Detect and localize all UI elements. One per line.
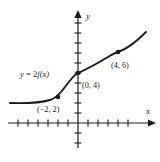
data-point-marker bbox=[76, 71, 81, 76]
point-label-4-6: (4, 6) bbox=[111, 61, 129, 70]
x-axis-arrow-icon bbox=[148, 119, 156, 126]
curve-label-eq: = 2 bbox=[24, 69, 37, 79]
graph-canvas: y x y = 2f(x) (−2, 2) (0, 4) (4, 6) bbox=[0, 0, 160, 162]
curve-label-arg: (x) bbox=[40, 69, 50, 79]
data-point-marker bbox=[116, 50, 121, 55]
curve-equation-label: y = 2f(x) bbox=[19, 69, 49, 79]
y-axis-arrow-icon bbox=[74, 10, 81, 18]
x-axis-label: x bbox=[145, 106, 150, 116]
data-point-marker bbox=[56, 95, 61, 100]
point-label-minus2-2: (−2, 2) bbox=[37, 105, 60, 114]
function-graph-figure: y x y = 2f(x) (−2, 2) (0, 4) (4, 6) bbox=[0, 0, 160, 162]
point-label-0-4: (0, 4) bbox=[82, 81, 100, 90]
y-axis-label: y bbox=[85, 11, 90, 21]
